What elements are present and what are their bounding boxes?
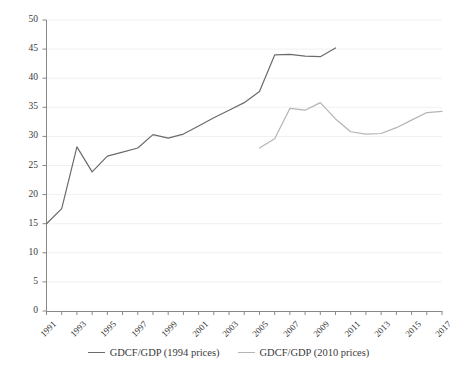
y-tick-label: 25	[16, 160, 38, 170]
legend-item-1[interactable]: GDCF/GDP (1994 prices)	[88, 347, 220, 358]
y-tick-label: 5	[16, 276, 38, 286]
legend-swatch-icon	[88, 352, 105, 353]
gridlines	[47, 20, 443, 282]
y-tick-label: 30	[16, 130, 38, 140]
y-tick-label: 45	[16, 43, 38, 53]
y-tick-label: 35	[16, 101, 38, 111]
chart-canvas	[0, 0, 457, 373]
legend-swatch-icon	[238, 352, 255, 353]
legend-label: GDCF/GDP (2010 prices)	[260, 347, 370, 358]
chart-legend: GDCF/GDP (1994 prices)GDCF/GDP (2010 pri…	[0, 347, 457, 358]
y-tick-label: 40	[16, 72, 38, 82]
chart-figure: Percent 05101520253035404550 19911993199…	[0, 0, 457, 373]
y-axis-ticks	[43, 20, 47, 311]
series-line-1	[47, 48, 336, 224]
y-tick-label: 20	[16, 189, 38, 199]
legend-label: GDCF/GDP (1994 prices)	[110, 347, 220, 358]
y-tick-label: 10	[16, 247, 38, 257]
y-tick-label: 50	[16, 14, 38, 24]
y-tick-label: 15	[16, 218, 38, 228]
data-series-layer	[47, 48, 443, 224]
legend-item-2[interactable]: GDCF/GDP (2010 prices)	[238, 347, 370, 358]
y-tick-label: 0	[16, 305, 38, 315]
series-line-2	[259, 103, 442, 148]
